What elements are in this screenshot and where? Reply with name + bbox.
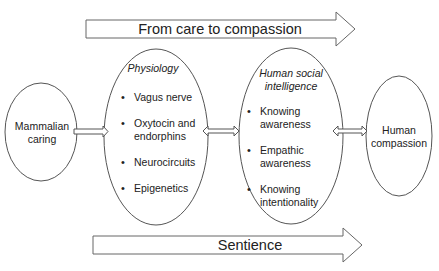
mammalian-line1: Mammalian bbox=[6, 120, 78, 133]
bottom-arrow-label: Sentience bbox=[150, 236, 350, 254]
mammalian-line2: caring bbox=[6, 133, 78, 146]
connector-double-arrow-physiology-social bbox=[203, 126, 239, 136]
physiology-list: Vagus nerve Oxytocin and endorphins Neur… bbox=[120, 91, 206, 195]
physiology-item: Vagus nerve bbox=[120, 91, 206, 104]
physiology-item: Neurocircuits bbox=[120, 156, 206, 169]
mammalian-caring-label: Mammalian caring bbox=[6, 120, 78, 146]
physiology-item: Epigenetics bbox=[120, 182, 206, 195]
social-title-line1: Human social bbox=[249, 67, 333, 80]
social-intelligence-list: Knowing awareness Empathic awareness Kno… bbox=[246, 105, 324, 209]
compassion-line2: compassion bbox=[366, 137, 432, 150]
social-item: Knowing awareness bbox=[246, 105, 324, 131]
social-intelligence-title: Human social intelligence bbox=[249, 67, 333, 93]
physiology-title: Physiology bbox=[120, 62, 186, 75]
human-compassion-label: Human compassion bbox=[366, 124, 432, 150]
social-item: Empathic awareness bbox=[246, 144, 324, 170]
top-arrow-label: From care to compassion bbox=[120, 20, 320, 38]
social-item: Knowing intentionality bbox=[246, 183, 324, 209]
connector-arrow-mammalian-physiology bbox=[74, 126, 108, 137]
connector-double-arrow-social-compassion bbox=[333, 126, 367, 136]
social-title-line2: intelligence bbox=[249, 80, 333, 93]
compassion-line1: Human bbox=[366, 124, 432, 137]
physiology-item: Oxytocin and endorphins bbox=[120, 117, 206, 143]
